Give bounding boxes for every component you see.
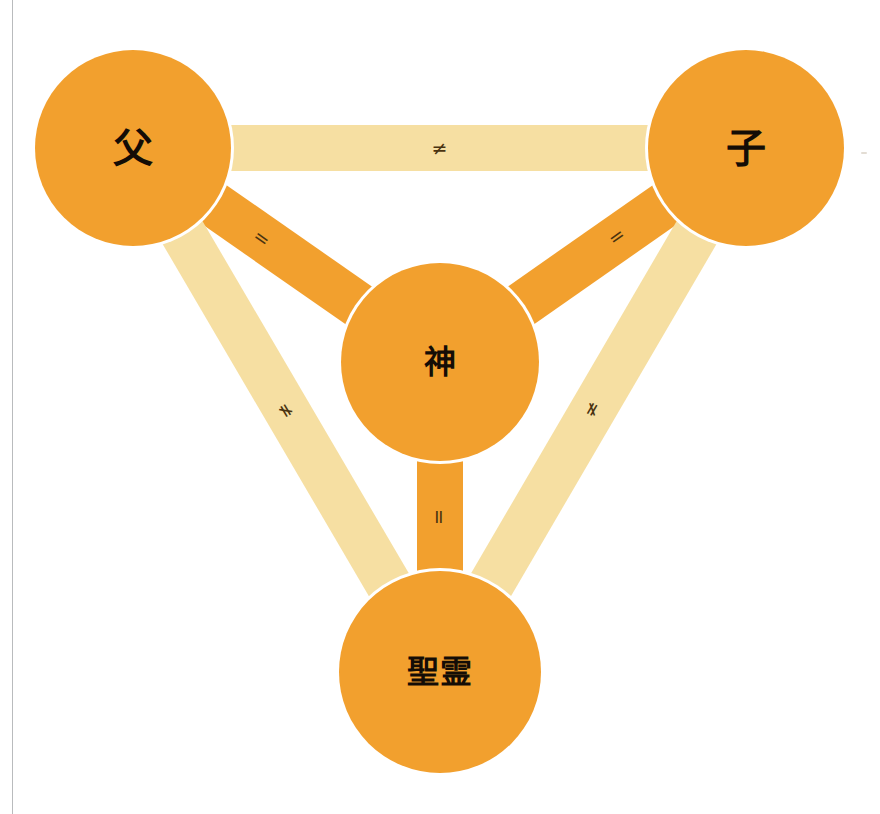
edge-symbol-father-son: ≠ [432,137,448,159]
trinity-shield-diagram: 父子神聖霊 ≠===≠≠ [0,0,880,814]
diagram-canvas: 父子神聖霊 ≠===≠≠ [0,0,880,814]
node-label-spirit: 聖霊 [407,653,473,691]
node-label-god: 神 [424,343,457,381]
node-son[interactable]: 子 [645,47,847,249]
node-god[interactable]: 神 [338,260,542,464]
edge-symbol-god-spirit: = [429,509,451,525]
node-spirit[interactable]: 聖霊 [336,568,544,776]
scan-speck-artifact [861,152,867,154]
node-father[interactable]: 父 [32,47,234,249]
node-label-father: 父 [113,125,154,171]
node-label-son: 子 [726,125,767,171]
